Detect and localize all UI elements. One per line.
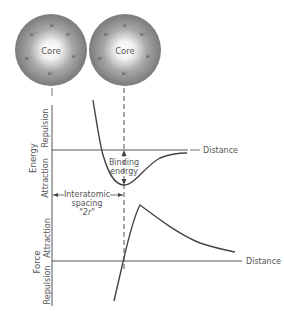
force-attraction-label: Attraction: [43, 218, 52, 258]
binding-arrow-top-icon: [122, 150, 127, 156]
force-plot: Distance Force Attraction Repulsion: [32, 205, 281, 306]
electron-icon: e⁻: [122, 69, 129, 76]
binding-energy-label-line2: energy: [110, 167, 138, 176]
interatomic-bonding-diagram: Core e⁻ e⁻ e⁻ e⁻ e⁻ e⁻ Core e⁻ e⁻ e⁻ e⁻ …: [0, 0, 284, 322]
electron-icon: e⁻: [104, 30, 111, 37]
energy-curve: [93, 100, 187, 185]
spacing-arrow-left-icon: [53, 193, 58, 197]
binding-energy-label-line1: Binding: [109, 158, 139, 167]
electron-icon: e⁻: [72, 52, 79, 59]
atom-core-label: Core: [41, 46, 61, 56]
electron-icon: e⁻: [30, 30, 37, 37]
electron-icon: e⁻: [50, 21, 57, 28]
electron-icon: e⁻: [48, 69, 55, 76]
spacing-label-line3: "2r": [79, 208, 95, 217]
energy-axis-label: Energy: [28, 143, 38, 173]
atom-left: Core e⁻ e⁻ e⁻ e⁻ e⁻ e⁻: [15, 14, 87, 86]
energy-plot: Distance Energy Repulsion Attraction Bin…: [28, 100, 238, 217]
atom-right: Core e⁻ e⁻ e⁻ e⁻ e⁻ e⁻: [89, 14, 161, 86]
energy-attraction-label: Attraction: [41, 158, 50, 198]
force-distance-label: Distance: [246, 257, 281, 266]
electron-icon: e⁻: [123, 21, 130, 28]
spacing-label-line1: Interatomic: [64, 190, 110, 199]
force-curve: [114, 205, 235, 301]
force-repulsion-label: Repulsion: [43, 266, 52, 305]
spacing-arrow-right-icon: [118, 193, 123, 197]
electron-icon: e⁻: [25, 54, 32, 61]
atom-core-label: Core: [115, 46, 135, 56]
force-axis-label: Force: [32, 251, 42, 274]
energy-repulsion-label: Repulsion: [41, 109, 50, 148]
electron-icon: e⁻: [98, 54, 105, 61]
energy-distance-label: Distance: [203, 146, 238, 155]
electron-icon: e⁻: [146, 52, 153, 59]
spacing-label-line2: spacing: [72, 199, 103, 208]
electron-icon: e⁻: [140, 30, 147, 37]
binding-arrow-bottom-icon: [122, 179, 127, 185]
electron-icon: e⁻: [66, 30, 73, 37]
